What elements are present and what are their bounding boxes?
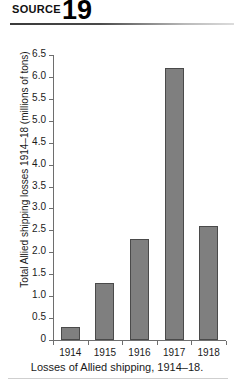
y-axis-tick-label: 5.5 [32, 92, 46, 103]
y-axis-tick: 5.5 [0, 99, 53, 100]
y-axis-tick-label: 2.5 [32, 223, 46, 234]
y-axis-tick-mark [49, 99, 53, 100]
x-axis-label-1914: 1914 [53, 347, 88, 358]
y-axis-tick-label: 1.0 [32, 289, 46, 300]
y-axis-tick: 2.5 [0, 230, 53, 231]
bar-1915 [95, 283, 114, 340]
y-axis-tick-label: 4.0 [32, 158, 46, 169]
y-axis-tick-label: 3.5 [32, 180, 46, 191]
source-header: SOURCE 19 [0, 0, 234, 30]
x-axis-line [53, 340, 226, 341]
x-axis-label-1917: 1917 [157, 347, 192, 358]
y-axis-tick: 0 [0, 340, 53, 341]
y-axis-tick: 1.0 [0, 296, 53, 297]
y-axis-tick-mark [49, 318, 53, 319]
chart-caption: Losses of Allied shipping, 1914–18. [0, 361, 234, 373]
y-axis-tick-label: 4.5 [32, 136, 46, 147]
y-axis-tick-label: 0.5 [32, 311, 46, 322]
x-axis-tick-mark [191, 341, 192, 345]
bottom-divider [8, 378, 228, 379]
y-axis-line [53, 55, 54, 341]
x-axis-tick-mark [88, 341, 89, 345]
y-axis-tick: 3.0 [0, 208, 53, 209]
y-axis-tick-mark [49, 252, 53, 253]
y-axis-tick-mark [49, 187, 53, 188]
x-axis-label-1916: 1916 [122, 347, 157, 358]
y-axis-tick: 1.5 [0, 274, 53, 275]
y-axis-tick-label: 1.5 [32, 267, 46, 278]
y-axis-tick-mark [49, 165, 53, 166]
y-axis-tick-label: 3.0 [32, 201, 46, 212]
x-axis-tick-mark [157, 341, 158, 345]
y-axis-title: Total Allied shipping losses 1914–18 (mi… [19, 25, 30, 315]
bar-1918 [199, 226, 218, 340]
y-axis-tick-mark [49, 274, 53, 275]
y-axis-tick-mark [49, 296, 53, 297]
x-axis-label-1915: 1915 [88, 347, 123, 358]
y-axis-tick-mark [49, 77, 53, 78]
y-axis-tick: 3.5 [0, 187, 53, 188]
y-axis-tick: 6.0 [0, 77, 53, 78]
source-label: SOURCE [12, 3, 61, 15]
bar-chart: Total Allied shipping losses 1914–18 (mi… [0, 30, 234, 360]
y-axis-tick-mark [49, 143, 53, 144]
y-axis-tick-mark [49, 121, 53, 122]
bar-1917 [165, 68, 184, 340]
x-axis-tick-mark [226, 341, 227, 345]
x-axis-tick-mark [53, 341, 54, 345]
y-axis-tick-label: 2.0 [32, 245, 46, 256]
y-axis-tick-mark [49, 230, 53, 231]
y-axis-tick-label: 6.0 [32, 70, 46, 81]
y-axis-tick: 0.5 [0, 318, 53, 319]
y-axis-tick: 6.5 [0, 55, 53, 56]
y-axis-tick: 4.5 [0, 143, 53, 144]
y-axis-tick-label: 5.0 [32, 114, 46, 125]
bar-1916 [130, 239, 149, 340]
x-axis-label-1918: 1918 [191, 347, 226, 358]
source-number: 19 [62, 0, 92, 25]
y-axis-tick: 5.0 [0, 121, 53, 122]
y-axis-tick-label: 6.5 [32, 48, 46, 59]
y-axis-tick-mark [49, 55, 53, 56]
header-divider [10, 23, 234, 25]
bar-1914 [61, 327, 80, 340]
y-axis-tick: 4.0 [0, 165, 53, 166]
y-axis-tick-mark [49, 208, 53, 209]
y-axis-tick: 2.0 [0, 252, 53, 253]
x-axis-tick-mark [122, 341, 123, 345]
y-axis-tick-label: 0 [40, 333, 46, 344]
